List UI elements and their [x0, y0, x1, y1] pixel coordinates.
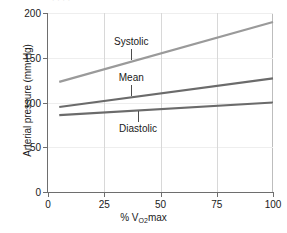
series-line-diastolic [59, 103, 273, 116]
arterial-pressure-chart: · · · · Arterial pressure (mm Hg) % VO2m… [0, 0, 287, 233]
x-axis-title-main: % V [120, 212, 138, 223]
x-axis-title-tail: max [148, 212, 167, 223]
x-tick-mark [48, 192, 49, 197]
x-tick-label: 50 [155, 199, 166, 210]
x-tick-mark [217, 192, 218, 197]
leader-line-mean [131, 85, 132, 96]
plot-area: 050100150200 0255075100 SystolicMeanDias… [47, 13, 273, 193]
y-tick-label: 0 [35, 187, 41, 198]
x-tick-label: 75 [211, 199, 222, 210]
y-tick-label: 50 [30, 142, 41, 153]
cut-off-caption-strip: · · · · [0, 0, 287, 7]
series-line-mean [59, 78, 273, 107]
series-lines [48, 13, 273, 192]
x-tick-label: 25 [99, 199, 110, 210]
x-axis-title: % VO2max [0, 212, 287, 224]
x-axis-title-subscript: O2 [139, 217, 148, 224]
leader-line-diastolic [138, 111, 139, 123]
caption-fragment-text: · · · · [52, 0, 71, 4]
series-label-systolic: Systolic [114, 36, 148, 47]
y-tick-label: 100 [24, 97, 41, 108]
series-label-diastolic: Diastolic [119, 123, 157, 134]
y-tick-label: 200 [24, 8, 41, 19]
x-tick-label: 100 [265, 199, 282, 210]
series-label-mean: Mean [119, 72, 144, 83]
x-tick-mark [104, 192, 105, 197]
x-tick-label: 0 [45, 199, 51, 210]
y-tick-label: 150 [24, 52, 41, 63]
leader-line-systolic [131, 49, 132, 61]
series-line-systolic [59, 22, 273, 82]
x-tick-mark [161, 192, 162, 197]
x-tick-mark [273, 192, 274, 197]
